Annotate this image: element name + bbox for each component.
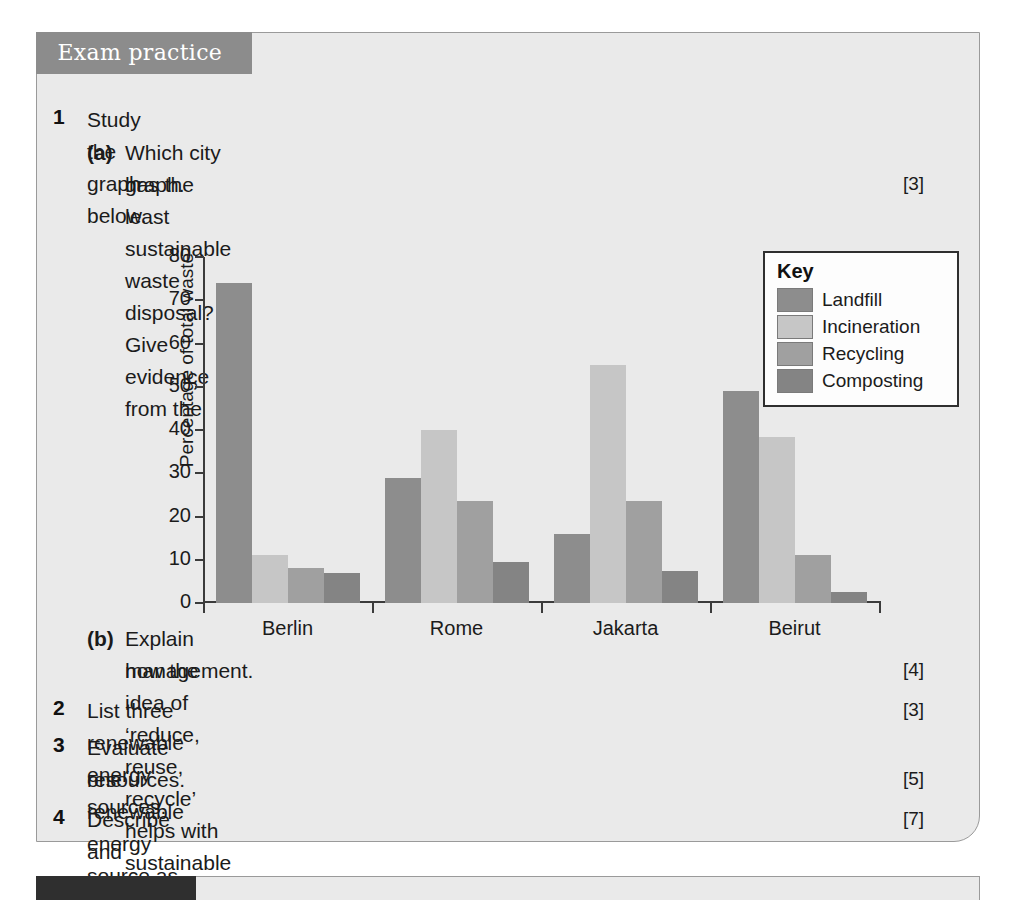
y-tick-label: 30	[133, 460, 191, 483]
x-category-label-berlin: Berlin	[262, 617, 313, 640]
question-3-number: 3	[53, 733, 65, 757]
y-tick-label: 40	[133, 417, 191, 440]
x-category-label-rome: Rome	[430, 617, 483, 640]
question-4-marks: [7]	[903, 808, 924, 830]
x-tick-mark	[372, 603, 374, 613]
y-tick-label: 0	[133, 590, 191, 613]
question-1a-marks: [3]	[903, 173, 924, 195]
exam-practice-panel: Exam practice 1 Study the graph below. (…	[36, 32, 980, 842]
x-tick-mark	[879, 603, 881, 613]
bar-jakarta-landfill	[554, 534, 590, 603]
legend-item-landfill: Landfill	[777, 288, 947, 312]
bar-berlin-composting	[324, 573, 360, 603]
legend-swatch-incineration	[777, 315, 813, 339]
next-section-banner	[36, 876, 196, 900]
x-tick-mark	[710, 603, 712, 613]
x-tick-mark	[541, 603, 543, 613]
next-section-panel	[36, 876, 980, 900]
question-1-number: 1	[53, 105, 65, 129]
legend-label-landfill: Landfill	[822, 289, 882, 311]
bar-beirut-composting	[831, 592, 867, 603]
legend-item-composting: Composting	[777, 369, 947, 393]
question-1b-text-line2: management.	[125, 655, 253, 687]
bar-rome-incineration	[421, 430, 457, 603]
x-tick-mark	[203, 603, 205, 613]
panel-banner-title: Exam practice	[58, 40, 223, 65]
question-3-text-line2: resources.	[87, 764, 185, 796]
legend-swatch-composting	[777, 369, 813, 393]
y-tick-label: 50	[133, 374, 191, 397]
legend-title: Key	[777, 260, 947, 283]
bar-jakarta-composting	[662, 571, 698, 603]
bar-jakarta-recycling	[626, 501, 662, 603]
bar-rome-landfill	[385, 478, 421, 603]
question-2-marks: [3]	[903, 699, 924, 721]
waste-disposal-bar-chart: Percentage of total waste 01020304050607…	[133, 245, 893, 645]
chart-y-axis-title: Percentage of total waste	[176, 230, 198, 490]
y-tick-label: 20	[133, 504, 191, 527]
legend-item-recycling: Recycling	[777, 342, 947, 366]
legend-label-composting: Composting	[822, 370, 923, 392]
legend-swatch-landfill	[777, 288, 813, 312]
bar-berlin-landfill	[216, 283, 252, 603]
question-1a-label: (a)	[87, 137, 113, 169]
bar-beirut-recycling	[795, 555, 831, 603]
question-1b-marks: [4]	[903, 659, 924, 681]
panel-banner: Exam practice	[36, 32, 253, 74]
legend-label-incineration: Incineration	[822, 316, 920, 338]
question-1a-text-line2: graph.	[125, 169, 185, 201]
bar-berlin-incineration	[252, 555, 288, 603]
y-tick-label: 60	[133, 331, 191, 354]
x-category-label-jakarta: Jakarta	[593, 617, 659, 640]
legend-item-incineration: Incineration	[777, 315, 947, 339]
y-tick-label: 70	[133, 287, 191, 310]
chart-legend: Key LandfillIncinerationRecyclingCompost…	[763, 251, 959, 407]
bar-beirut-incineration	[759, 437, 795, 604]
y-tick-label: 10	[133, 547, 191, 570]
legend-label-recycling: Recycling	[822, 343, 904, 365]
x-category-label-beirut: Beirut	[768, 617, 820, 640]
question-4-number: 4	[53, 805, 65, 829]
page-root: Exam practice 1 Study the graph below. (…	[0, 0, 1012, 900]
bar-berlin-recycling	[288, 568, 324, 603]
question-1b-label: (b)	[87, 623, 114, 655]
question-2-number: 2	[53, 696, 65, 720]
y-tick-label: 80	[133, 244, 191, 267]
bar-jakarta-incineration	[590, 365, 626, 603]
bar-rome-recycling	[457, 501, 493, 603]
legend-rows: LandfillIncinerationRecyclingComposting	[777, 288, 947, 393]
question-3-marks: [5]	[903, 768, 924, 790]
bar-rome-composting	[493, 562, 529, 603]
legend-swatch-recycling	[777, 342, 813, 366]
bar-beirut-landfill	[723, 391, 759, 603]
